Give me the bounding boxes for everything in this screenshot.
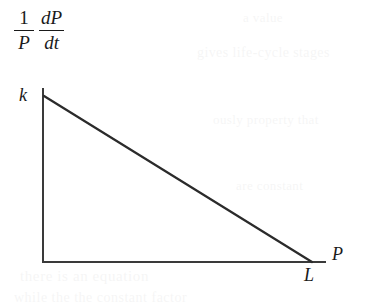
x-axis-label-p: P <box>332 244 343 265</box>
plot-area <box>0 0 367 306</box>
growth-rate-line <box>44 96 312 262</box>
y-intercept-label-k: k <box>19 85 27 106</box>
figure-canvas: a value gives life-cycle stages ously pr… <box>0 0 367 306</box>
x-intercept-label-l: L <box>304 265 314 286</box>
